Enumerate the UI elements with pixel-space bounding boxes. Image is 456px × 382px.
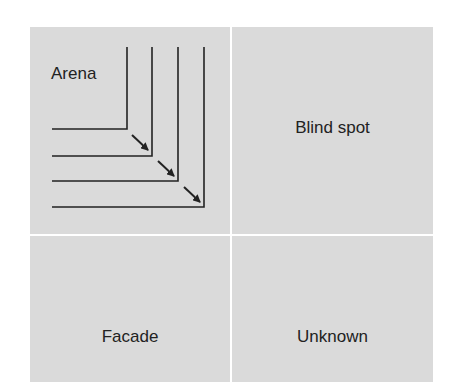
arena-boundary-1 [52, 47, 127, 129]
unknown-label: Unknown [232, 327, 433, 347]
quadrant-facade: Facade [30, 236, 230, 382]
quadrant-blind-spot: Blind spot [232, 27, 433, 234]
johari-window: Arena Blind spot Facade [30, 27, 433, 382]
quadrant-arena: Arena [30, 27, 230, 234]
expand-arrow-icon [158, 161, 174, 176]
blind-spot-label: Blind spot [232, 118, 433, 138]
quadrant-unknown: Unknown [232, 236, 433, 382]
arena-expansion-lines [30, 27, 230, 234]
facade-label: Facade [30, 327, 230, 347]
arena-boundary-4 [52, 47, 204, 207]
expand-arrow-icon [184, 187, 200, 202]
expand-arrow-icon [132, 135, 148, 150]
